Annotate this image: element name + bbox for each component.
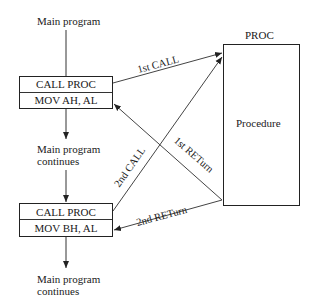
mov-ah-instruction: MOV AH, AL: [20, 93, 112, 109]
main-program-continues-2: Main program continues: [37, 273, 100, 297]
call-return-diagram: Main program CALL PROC MOV AH, AL Main p…: [0, 0, 313, 307]
main-program-label: Main program: [37, 15, 100, 27]
call-block-2: CALL PROC MOV BH, AL: [19, 203, 113, 237]
proc-title: PROC: [245, 29, 274, 41]
mov-bh-instruction: MOV BH, AL: [20, 220, 112, 236]
main-program-continues-1: Main program continues: [37, 143, 100, 167]
call-proc-instruction-1: CALL PROC: [20, 77, 112, 93]
procedure-label: Procedure: [236, 117, 281, 129]
call-proc-instruction-2: CALL PROC: [20, 204, 112, 220]
call-block-1: CALL PROC MOV AH, AL: [19, 76, 113, 109]
